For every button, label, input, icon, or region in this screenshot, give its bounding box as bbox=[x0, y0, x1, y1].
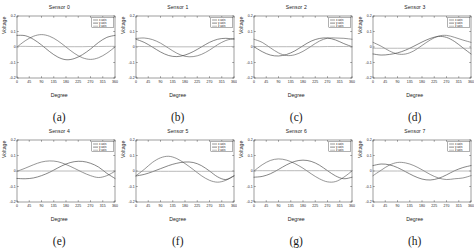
plot-area: 04590135180225270315360-0.2-0.100.10.2x … bbox=[356, 135, 474, 215]
plot-area: 04590135180225270315360-0.2-0.100.10.2x … bbox=[119, 135, 238, 215]
subfigure-caption: (h) bbox=[356, 235, 474, 247]
y-tick-label: 0.1 bbox=[248, 30, 253, 34]
x-tick-label: 135 bbox=[51, 204, 57, 208]
subfigure-caption: (c) bbox=[237, 111, 356, 123]
x-tick-label: 360 bbox=[349, 204, 355, 208]
y-tick-label: -0.2 bbox=[365, 200, 371, 204]
x-tick-label: 0 bbox=[16, 80, 18, 84]
x-tick-label: 225 bbox=[194, 80, 200, 84]
x-tick-label: 90 bbox=[158, 80, 162, 84]
panel-title: Sensor 5 bbox=[119, 128, 238, 134]
plot-area: 04590135180225270315360-0.2-0.100.10.2x … bbox=[119, 11, 238, 91]
plot-wrapper: 04590135180225270315360-0.2-0.100.10.2x … bbox=[356, 11, 474, 91]
y-tick-label: 0.2 bbox=[129, 14, 134, 18]
x-tick-label: 45 bbox=[27, 204, 31, 208]
x-tick-label: 315 bbox=[455, 204, 461, 208]
subfigure-caption: (f) bbox=[119, 235, 238, 247]
x-tick-label: 45 bbox=[383, 80, 387, 84]
x-tick-label: 135 bbox=[406, 204, 412, 208]
y-tick-label: 0 bbox=[369, 169, 371, 173]
legend-label-2: z axis bbox=[336, 24, 344, 28]
x-tick-label: 0 bbox=[253, 80, 255, 84]
x-tick-label: 315 bbox=[100, 80, 106, 84]
plot-wrapper: 04590135180225270315360-0.2-0.100.10.2x … bbox=[119, 135, 238, 215]
x-axis-label: Degree bbox=[0, 92, 119, 98]
x-tick-label: 90 bbox=[277, 80, 281, 84]
y-tick-label: 0.2 bbox=[248, 138, 253, 142]
plot-wrapper: 04590135180225270315360-0.2-0.100.10.2x … bbox=[237, 11, 356, 91]
x-axis-label: Degree bbox=[237, 216, 356, 222]
x-tick-label: 135 bbox=[288, 204, 294, 208]
legend-label-2: z axis bbox=[336, 148, 344, 152]
legend-label-2: z axis bbox=[99, 24, 107, 28]
panel-title: Sensor 0 bbox=[0, 4, 119, 10]
x-tick-label: 0 bbox=[135, 204, 137, 208]
panel-title: Sensor 6 bbox=[237, 128, 356, 134]
x-tick-label: 270 bbox=[206, 204, 212, 208]
x-tick-label: 225 bbox=[431, 204, 437, 208]
x-tick-label: 135 bbox=[51, 80, 57, 84]
x-tick-label: 270 bbox=[88, 204, 94, 208]
x-tick-label: 45 bbox=[27, 80, 31, 84]
y-tick-label: -0.1 bbox=[365, 185, 371, 189]
x-tick-label: 360 bbox=[231, 204, 237, 208]
subfigure-caption: (g) bbox=[237, 235, 356, 247]
x-tick-label: 315 bbox=[337, 80, 343, 84]
legend-label-2: z axis bbox=[455, 24, 463, 28]
x-tick-label: 225 bbox=[75, 204, 81, 208]
y-tick-label: -0.2 bbox=[247, 76, 253, 80]
figure-row-top: Sensor 0Voltage04590135180225270315360-0… bbox=[0, 0, 474, 124]
plot-area: 04590135180225270315360-0.2-0.100.10.2x … bbox=[0, 11, 119, 91]
y-tick-label: -0.2 bbox=[10, 76, 16, 80]
x-tick-label: 270 bbox=[443, 204, 449, 208]
plot-area: 04590135180225270315360-0.2-0.100.10.2x … bbox=[237, 11, 356, 91]
y-tick-label: 0.2 bbox=[11, 138, 16, 142]
subfigure-caption: (a) bbox=[0, 111, 119, 123]
x-tick-label: 90 bbox=[395, 204, 399, 208]
y-tick-label: 0.1 bbox=[129, 30, 134, 34]
plot-wrapper: 04590135180225270315360-0.2-0.100.10.2x … bbox=[0, 11, 119, 91]
x-tick-label: 90 bbox=[158, 204, 162, 208]
x-tick-label: 45 bbox=[383, 204, 387, 208]
x-tick-label: 90 bbox=[40, 80, 44, 84]
sensor-panel-6: Sensor 6Voltage04590135180225270315360-0… bbox=[237, 124, 356, 248]
plot-wrapper: 04590135180225270315360-0.2-0.100.10.2x … bbox=[237, 135, 356, 215]
x-tick-label: 225 bbox=[312, 204, 318, 208]
x-tick-label: 315 bbox=[100, 204, 106, 208]
x-tick-label: 180 bbox=[63, 80, 69, 84]
x-tick-label: 45 bbox=[264, 204, 268, 208]
x-tick-label: 360 bbox=[112, 80, 118, 84]
x-tick-label: 180 bbox=[419, 80, 425, 84]
y-tick-label: 0.1 bbox=[11, 154, 16, 158]
y-tick-label: -0.1 bbox=[128, 185, 134, 189]
y-tick-label: 0.1 bbox=[366, 30, 371, 34]
x-tick-label: 315 bbox=[218, 204, 224, 208]
x-tick-label: 45 bbox=[264, 80, 268, 84]
x-tick-label: 180 bbox=[63, 204, 69, 208]
y-tick-label: 0.2 bbox=[129, 138, 134, 142]
sensor-panel-2: Sensor 2Voltage04590135180225270315360-0… bbox=[237, 0, 356, 124]
y-tick-label: 0.1 bbox=[11, 30, 16, 34]
x-tick-label: 360 bbox=[112, 204, 118, 208]
x-tick-label: 0 bbox=[135, 80, 137, 84]
panel-title: Sensor 1 bbox=[119, 4, 238, 10]
y-tick-label: 0 bbox=[14, 169, 16, 173]
x-tick-label: 270 bbox=[206, 80, 212, 84]
x-tick-label: 135 bbox=[406, 80, 412, 84]
x-tick-label: 180 bbox=[182, 204, 188, 208]
x-tick-label: 90 bbox=[395, 80, 399, 84]
y-tick-label: 0.1 bbox=[129, 154, 134, 158]
legend-label-2: z axis bbox=[455, 148, 463, 152]
sensor-panel-0: Sensor 0Voltage04590135180225270315360-0… bbox=[0, 0, 119, 124]
x-tick-label: 180 bbox=[300, 204, 306, 208]
x-axis-label: Degree bbox=[0, 216, 119, 222]
x-axis-label: Degree bbox=[119, 92, 238, 98]
x-tick-label: 45 bbox=[146, 204, 150, 208]
x-axis-label: Degree bbox=[356, 216, 474, 222]
x-tick-label: 135 bbox=[169, 204, 175, 208]
sensor-panel-3: Sensor 3Voltage04590135180225270315360-0… bbox=[356, 0, 474, 124]
x-tick-label: 180 bbox=[300, 80, 306, 84]
y-tick-label: -0.1 bbox=[10, 185, 16, 189]
y-tick-label: -0.2 bbox=[247, 200, 253, 204]
y-tick-label: -0.2 bbox=[128, 200, 134, 204]
